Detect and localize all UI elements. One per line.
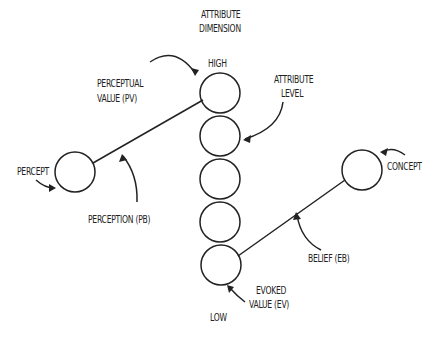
perception-arrow [123, 156, 137, 202]
belief-label: BELIEF (EB) [308, 252, 349, 265]
attribute-level-4 [200, 202, 240, 242]
diagram-canvas [0, 0, 434, 337]
perception-label: PERCEPTION (PB) [88, 213, 150, 226]
axis-title-line2: DIMENSION [199, 22, 241, 35]
evoked-value-line1: EVOKED [256, 284, 286, 297]
attribute-level-3 [200, 159, 240, 199]
attribute-level-line2: LEVEL [281, 87, 303, 100]
belief-line [238, 180, 345, 256]
attribute-level-1-high [200, 73, 240, 113]
perceptual-value-line1: PERCEPTUAL [97, 77, 143, 90]
attribute-level-line1: ATTRIBUTE [274, 73, 313, 86]
percept-label: PERCEPT [17, 165, 49, 178]
belief-arrow [297, 215, 321, 250]
perception-line [93, 100, 203, 163]
evoked-value-line2: VALUE (EV) [249, 298, 289, 311]
axis-title-line1: ATTRIBUTE [201, 8, 240, 21]
attribute-level-2 [200, 116, 240, 156]
low-label: LOW [210, 311, 227, 324]
perceptual-value-arrow [150, 56, 195, 73]
perceptual-value-line2: VALUE (PV) [97, 92, 137, 105]
attribute-dimension-diagram: ATTRIBUTE DIMENSION HIGH ATTRIBUTE LEVEL… [0, 0, 434, 337]
attribute-level-arrow [245, 102, 283, 139]
percept-circle [55, 152, 95, 192]
high-label: HIGH [208, 57, 227, 70]
concept-circle [342, 150, 382, 190]
attribute-level-5-low [201, 245, 241, 285]
concept-label: CONCEPT [387, 160, 422, 173]
